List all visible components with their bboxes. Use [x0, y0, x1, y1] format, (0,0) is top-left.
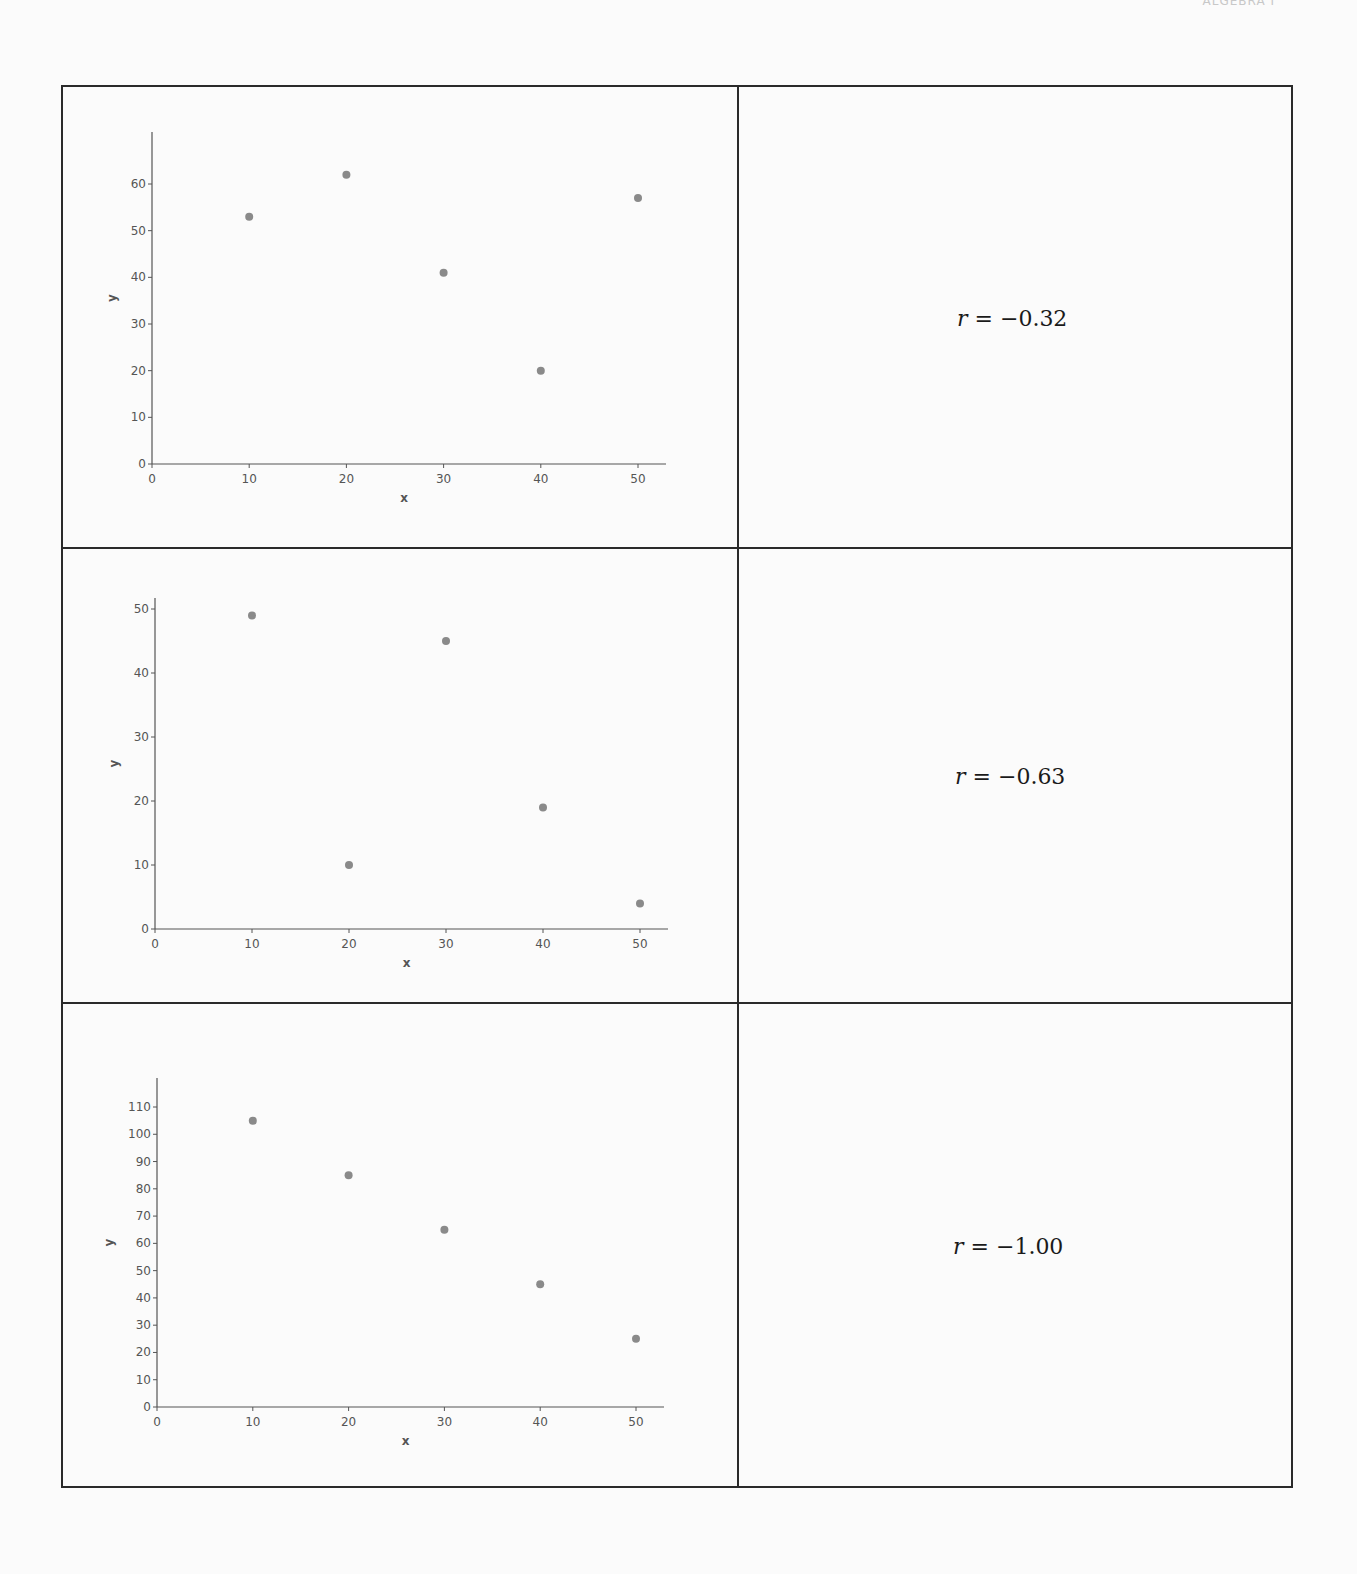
- data-point: [634, 194, 642, 202]
- x-axis-label: x: [400, 491, 408, 505]
- y-tick-label: 50: [134, 602, 149, 616]
- x-tick-label: 40: [533, 472, 548, 486]
- data-point: [632, 1335, 640, 1343]
- y-tick-label: 100: [128, 1127, 151, 1141]
- y-tick-label: 0: [138, 457, 146, 471]
- data-point: [245, 213, 253, 221]
- y-tick-label: 30: [134, 730, 149, 744]
- data-point: [345, 861, 353, 869]
- x-tick-label: 20: [339, 472, 354, 486]
- y-tick-label: 40: [131, 270, 146, 284]
- y-tick-label: 0: [143, 1400, 151, 1414]
- x-tick-label: 10: [242, 472, 257, 486]
- x-tick-label: 30: [436, 472, 451, 486]
- x-tick-label: 10: [245, 1415, 260, 1429]
- y-tick-label: 40: [134, 666, 149, 680]
- y-tick-label: 40: [136, 1291, 151, 1305]
- data-point: [539, 803, 547, 811]
- y-tick-label: 60: [136, 1236, 151, 1250]
- data-point: [345, 1171, 353, 1179]
- y-axis-label: y: [105, 294, 119, 302]
- data-point: [342, 171, 350, 179]
- scatter-plot-3: 010203040500102030405060708090100110xy: [102, 1078, 664, 1448]
- scatter-plot-1: 010203040500102030405060xy: [105, 132, 666, 505]
- x-tick-label: 0: [148, 472, 156, 486]
- y-tick-label: 10: [131, 410, 146, 424]
- data-point: [537, 367, 545, 375]
- y-tick-label: 10: [134, 858, 149, 872]
- x-axis-label: x: [402, 1434, 410, 1448]
- x-tick-label: 40: [533, 1415, 548, 1429]
- y-tick-label: 20: [134, 794, 149, 808]
- y-axis-label: y: [107, 759, 121, 767]
- y-tick-label: 50: [136, 1264, 151, 1278]
- y-tick-label: 60: [131, 177, 146, 191]
- x-tick-label: 20: [341, 937, 356, 951]
- x-tick-label: 10: [244, 937, 259, 951]
- data-point: [249, 1117, 257, 1125]
- x-axis-label: x: [403, 956, 411, 970]
- y-tick-label: 70: [136, 1209, 151, 1223]
- y-tick-label: 90: [136, 1155, 151, 1169]
- x-tick-label: 40: [535, 937, 550, 951]
- y-tick-label: 10: [136, 1373, 151, 1387]
- data-point: [248, 611, 256, 619]
- data-point: [636, 899, 644, 907]
- y-tick-label: 80: [136, 1182, 151, 1196]
- x-tick-label: 20: [341, 1415, 356, 1429]
- y-axis-label: y: [102, 1238, 116, 1246]
- y-tick-label: 0: [141, 922, 149, 936]
- x-tick-label: 30: [437, 1415, 452, 1429]
- y-tick-label: 30: [131, 317, 146, 331]
- y-tick-label: 30: [136, 1318, 151, 1332]
- y-tick-label: 50: [131, 224, 146, 238]
- x-tick-label: 0: [153, 1415, 161, 1429]
- x-tick-label: 30: [438, 937, 453, 951]
- data-point: [536, 1280, 544, 1288]
- x-tick-label: 0: [151, 937, 159, 951]
- x-tick-label: 50: [628, 1415, 643, 1429]
- scatter-plots: 010203040500102030405060xy01020304050010…: [0, 0, 1357, 1574]
- y-tick-label: 110: [128, 1100, 151, 1114]
- data-point: [440, 269, 448, 277]
- data-point: [440, 1226, 448, 1234]
- x-tick-label: 50: [630, 472, 645, 486]
- scatter-plot-2: 0102030405001020304050xy: [107, 598, 668, 970]
- x-tick-label: 50: [632, 937, 647, 951]
- y-tick-label: 20: [136, 1345, 151, 1359]
- data-point: [442, 637, 450, 645]
- y-tick-label: 20: [131, 364, 146, 378]
